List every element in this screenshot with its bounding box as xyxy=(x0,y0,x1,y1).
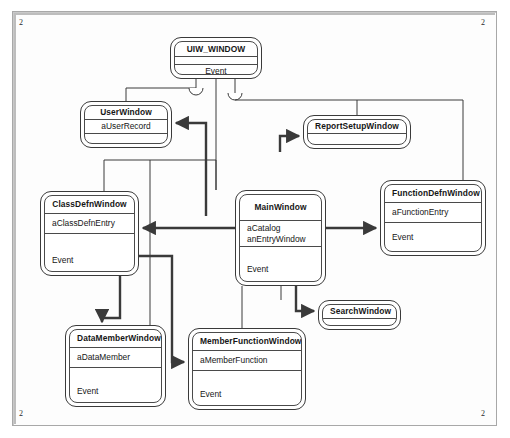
class-name-uiw-window: UIW_WINDOW xyxy=(175,42,257,57)
corner-mark-top-left: 2 xyxy=(19,19,23,27)
attribute-line: aCatalog xyxy=(247,223,314,234)
class-name-member-function-window: MemberFunctionWindow xyxy=(193,333,301,351)
corner-mark-bottom-left: 2 xyxy=(19,410,23,418)
diagram-canvas: 2 2 2 2 xyxy=(0,0,510,438)
corner-mark-top-right: 2 xyxy=(481,19,485,27)
class-operations-class-defn-window: Event xyxy=(45,234,134,271)
class-node-body: ReportSetupWindow xyxy=(307,119,407,145)
class-attributes-main-window: aCatalog anEntryWindow xyxy=(240,221,321,247)
class-attributes-data-member-window: aDataMember xyxy=(70,348,161,368)
class-attributes-member-function-window: aMemberFunction xyxy=(193,351,301,371)
class-node-member-function-window[interactable]: MemberFunctionWindow aMemberFunction Eve… xyxy=(188,328,306,410)
class-operations-member-function-window: Event xyxy=(193,371,301,405)
attribute-line: anEntryWindow xyxy=(247,234,314,245)
class-node-body: FunctionDefnWindow aFunctionEntry Event xyxy=(384,184,482,252)
class-name-class-defn-window: ClassDefnWindow xyxy=(45,196,134,214)
class-operations-user-window xyxy=(85,134,167,143)
class-node-report-setup-window[interactable]: ReportSetupWindow xyxy=(303,115,411,149)
corner-mark-bottom-right: 2 xyxy=(481,410,485,418)
class-node-body: UIW_WINDOW Event xyxy=(174,41,258,75)
class-node-uiw-window[interactable]: UIW_WINDOW Event xyxy=(170,37,262,79)
class-node-body: SearchWindow xyxy=(322,304,397,326)
class-node-body: MemberFunctionWindow aMemberFunction Eve… xyxy=(192,332,302,406)
class-name-search-window: SearchWindow xyxy=(323,305,396,319)
class-node-body: ClassDefnWindow aClassDefnEntry Event xyxy=(44,195,135,272)
class-name-report-setup-window: ReportSetupWindow xyxy=(308,120,406,134)
class-name-main-window: MainWindow xyxy=(240,195,321,221)
class-node-main-window[interactable]: MainWindow aCatalog anEntryWindow Event xyxy=(235,190,326,286)
class-node-class-defn-window[interactable]: ClassDefnWindow aClassDefnEntry Event xyxy=(40,191,139,276)
class-attributes-function-defn-window: aFunctionEntry xyxy=(385,203,481,223)
class-node-body: DataMemberWindow aDataMember Event xyxy=(69,329,162,403)
class-name-user-window: UserWindow xyxy=(85,106,167,120)
class-attributes-report-setup-window xyxy=(308,134,406,144)
class-node-user-window[interactable]: UserWindow aUserRecord xyxy=(80,101,172,148)
class-node-function-defn-window[interactable]: FunctionDefnWindow aFunctionEntry Event xyxy=(380,180,486,256)
class-node-search-window[interactable]: SearchWindow xyxy=(318,300,401,330)
class-operations-uiw-window: Event xyxy=(175,65,257,75)
class-attributes-user-window: aUserRecord xyxy=(85,120,167,134)
class-attributes-class-defn-window: aClassDefnEntry xyxy=(45,214,134,234)
class-node-body: MainWindow aCatalog anEntryWindow Event xyxy=(239,194,322,282)
class-name-data-member-window: DataMemberWindow xyxy=(70,330,161,348)
class-operations-main-window: Event xyxy=(240,247,321,281)
class-attributes-search-window xyxy=(323,319,396,325)
class-name-function-defn-window: FunctionDefnWindow xyxy=(385,185,481,203)
class-attributes-uiw-window xyxy=(175,57,257,65)
class-operations-data-member-window: Event xyxy=(70,368,161,402)
class-operations-function-defn-window: Event xyxy=(385,223,481,251)
class-node-body: UserWindow aUserRecord xyxy=(84,105,168,144)
class-node-data-member-window[interactable]: DataMemberWindow aDataMember Event xyxy=(65,325,166,407)
